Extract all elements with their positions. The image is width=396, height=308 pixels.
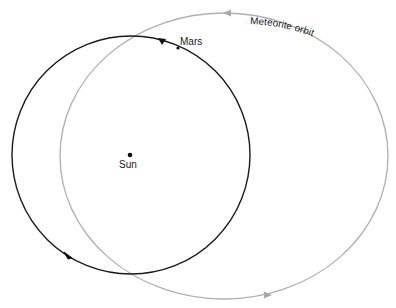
meteorite-orbit-arrow-top-icon <box>223 10 231 17</box>
meteorite-orbit-label: Meteorite orbit <box>250 15 316 39</box>
sun-point <box>128 153 133 158</box>
sun-label: Sun <box>119 159 137 170</box>
mars-orbit-arrow-bottom-icon <box>64 252 72 259</box>
meteorite-orbit <box>60 13 388 299</box>
mars-label: Mars <box>180 36 202 47</box>
orbit-diagram: Mars Sun Meteorite orbit <box>0 0 396 308</box>
meteorite-orbit-label-path: Meteorite orbit <box>250 15 316 39</box>
